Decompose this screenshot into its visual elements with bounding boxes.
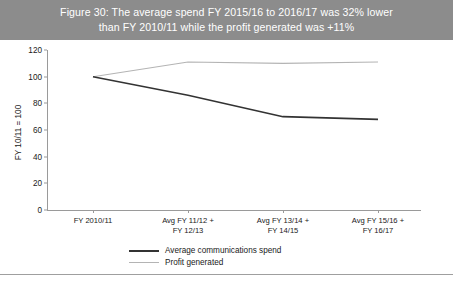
x-tick-label: Avg FY 13/14 +FY 14/15 xyxy=(257,216,309,235)
legend-line-icon-spend xyxy=(129,250,159,252)
y-axis-label: FY 10/11 = 100 xyxy=(14,78,23,188)
x-tick-mark xyxy=(378,210,379,213)
series-line-spend xyxy=(93,77,378,120)
legend-line-icon-profit xyxy=(129,262,159,263)
chart-area: FY 10/11 = 100 020406080100120 FY 2010/1… xyxy=(0,40,453,282)
legend-label-spend: Average communications spend xyxy=(165,246,281,255)
x-tick-label: Avg FY 15/16 +FY 16/17 xyxy=(352,216,404,235)
x-tick-mark xyxy=(93,210,94,213)
data-lines xyxy=(47,50,420,210)
legend-item-profit: Profit generated xyxy=(129,258,324,267)
figure-container: Figure 30: The average spend FY 2015/16 … xyxy=(0,0,453,282)
x-tick-label: FY 2010/11 xyxy=(74,216,113,226)
x-tick-label: Avg FY 11/12 +FY 12/13 xyxy=(162,216,214,235)
x-axis-line xyxy=(47,210,421,211)
figure-title-line-1: Figure 30: The average spend FY 2015/16 … xyxy=(60,6,393,18)
footer-divider xyxy=(0,274,453,275)
x-axis-ticks: FY 2010/11Avg FY 11/12 +FY 12/13Avg FY 1… xyxy=(47,216,421,246)
figure-title: Figure 30: The average spend FY 2015/16 … xyxy=(60,5,393,34)
plot-region xyxy=(47,50,420,210)
x-tick-mark xyxy=(283,210,284,213)
legend-item-spend: Average communications spend xyxy=(129,246,324,255)
figure-header: Figure 30: The average spend FY 2015/16 … xyxy=(0,0,453,40)
series-line-profit xyxy=(93,62,378,77)
x-tick-mark xyxy=(188,210,189,213)
chart-legend: Average communications spend Profit gene… xyxy=(0,246,453,267)
legend-label-profit: Profit generated xyxy=(165,258,223,267)
figure-title-line-2: than FY 2010/11 while the profit generat… xyxy=(60,20,393,35)
